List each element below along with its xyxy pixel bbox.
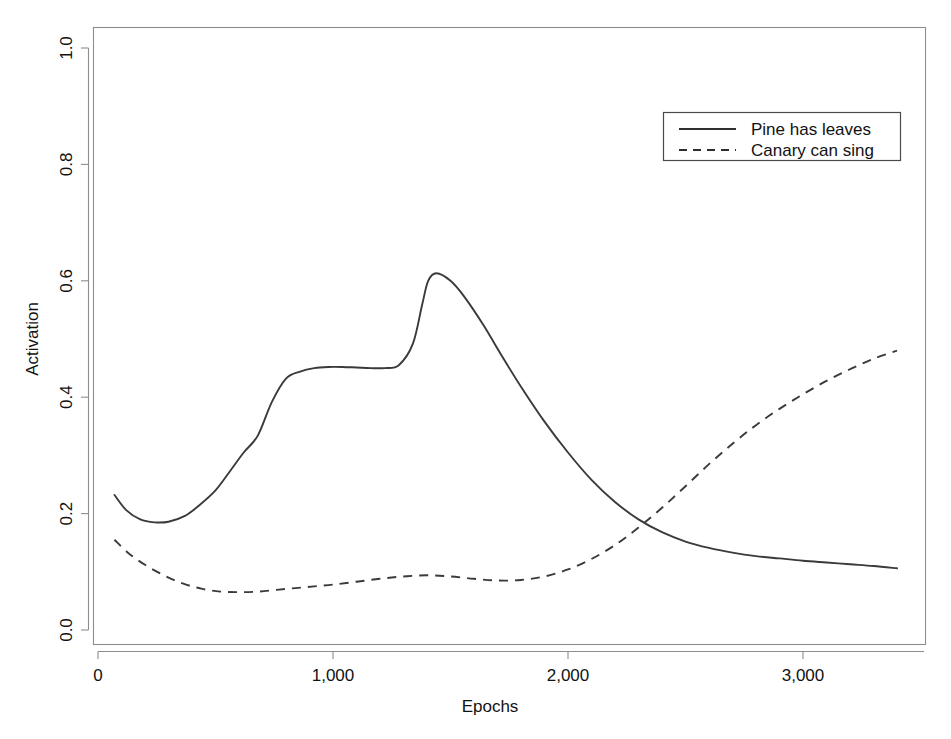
y-tick-label-5: 1.0 (57, 36, 76, 60)
y-tick-label-4: 0.8 (57, 153, 76, 177)
y-tick-label-2: 0.4 (57, 385, 76, 409)
y-tick-label-0: 0.0 (57, 618, 76, 642)
series-group (114, 273, 897, 592)
y-tick-label-1: 0.2 (57, 502, 76, 526)
legend-label-1: Canary can sing (751, 141, 874, 160)
x-tick-label-1: 1,000 (312, 666, 355, 685)
activation-line-chart: 0.0 0.2 0.4 0.6 0.8 1.0 Activation 0 1,0… (0, 0, 951, 739)
x-tick-label-3: 3,000 (782, 666, 825, 685)
series-line-canary-can-sing (114, 351, 897, 593)
x-tick-label-2: 2,000 (547, 666, 590, 685)
x-tick-label-0: 0 (93, 666, 102, 685)
x-axis-title: Epochs (462, 697, 519, 716)
legend-label-0: Pine has leaves (751, 120, 871, 139)
chart-figure: 0.0 0.2 0.4 0.6 0.8 1.0 Activation 0 1,0… (0, 0, 951, 739)
y-tick-label-3: 0.6 (57, 269, 76, 293)
chart-legend: Pine has leaves Canary can sing (664, 113, 901, 161)
series-line-pine-has-leaves (114, 273, 897, 568)
y-axis: 0.0 0.2 0.4 0.6 0.8 1.0 Activation (23, 36, 89, 642)
x-axis: 0 1,000 2,000 3,000 Epochs (93, 652, 924, 717)
y-axis-title: Activation (23, 302, 42, 376)
